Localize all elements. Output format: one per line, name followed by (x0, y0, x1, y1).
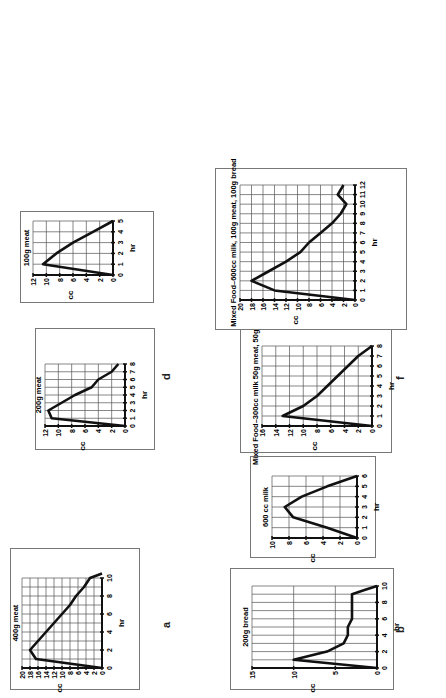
svg-text:4: 4 (359, 260, 366, 264)
svg-text:4: 4 (329, 303, 336, 307)
svg-text:7: 7 (359, 231, 366, 235)
svg-text:9: 9 (359, 212, 366, 216)
svg-text:2: 2 (359, 279, 366, 283)
svg-text:0: 0 (359, 298, 366, 302)
svg-text:8: 8 (359, 221, 366, 225)
svg-text:hr: hr (370, 239, 379, 247)
svg-text:6: 6 (359, 240, 366, 244)
svg-text:cc: cc (291, 315, 300, 324)
svg-text:6: 6 (318, 303, 325, 307)
svg-text:14: 14 (272, 303, 279, 311)
svg-text:12: 12 (359, 181, 366, 189)
svg-text:18: 18 (249, 303, 256, 311)
svg-text:11: 11 (359, 191, 366, 199)
svg-text:16: 16 (260, 303, 267, 311)
svg-text:0: 0 (352, 303, 359, 307)
svg-text:2: 2 (341, 303, 348, 307)
svg-text:5: 5 (359, 250, 366, 254)
svg-text:1: 1 (359, 288, 366, 292)
svg-text:20: 20 (237, 303, 244, 311)
svg-text:Mixed Food–600cc milk, 100g me: Mixed Food–600cc milk, 100g meat, 100g b… (229, 158, 238, 327)
svg-text:10: 10 (359, 200, 366, 208)
svg-text:12: 12 (283, 303, 290, 311)
figure-stage: 024681012141618200246810hrcc400g meata02… (0, 0, 446, 698)
svg-text:8: 8 (306, 303, 313, 307)
svg-text:3: 3 (359, 269, 366, 273)
svg-text:10: 10 (295, 303, 302, 311)
chart-panel-g: 024681012141618200123456789101112hrccMix… (215, 168, 407, 330)
